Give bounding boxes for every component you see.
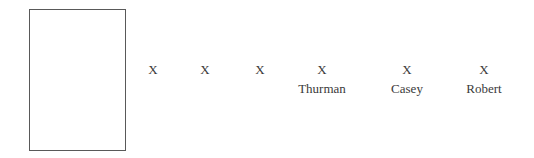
marker-name-label: Casey [391, 82, 423, 96]
marker-column: XRobert [466, 63, 501, 96]
marker-column: XCasey [391, 63, 423, 96]
marker-x-symbol: X [391, 63, 423, 76]
marker-x-symbol: X [466, 63, 501, 76]
marker-column: X [200, 63, 209, 76]
marker-column: XThurman [298, 63, 346, 96]
diagram-canvas: XXXXThurmanXCaseyXRobert [0, 0, 534, 158]
marker-column: X [255, 63, 264, 76]
marker-name-label: Robert [466, 82, 501, 96]
marker-column: X [148, 63, 157, 76]
marker-name-label: Thurman [298, 82, 346, 96]
marker-x-symbol: X [148, 63, 157, 76]
empty-rectangle [29, 9, 126, 151]
marker-x-symbol: X [255, 63, 264, 76]
marker-x-symbol: X [298, 63, 346, 76]
marker-x-symbol: X [200, 63, 209, 76]
